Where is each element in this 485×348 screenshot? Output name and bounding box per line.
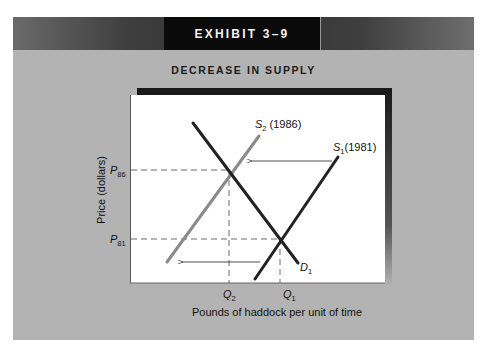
plot-shadow-top [137,88,392,95]
q1-tick-label: Q1 [283,288,296,303]
supply-demand-chart: S2 (1986) S1(1981) D1 P86 P81 Q2 Q1 Poun… [0,0,485,348]
plot-shadow-right [385,88,392,284]
p81-tick-label: P81 [110,233,126,248]
q2-tick-label: Q2 [223,288,236,303]
y-axis-title: Price (dollars) [95,156,107,224]
p86-tick-label: P86 [110,164,126,179]
x-axis-title: Pounds of haddock per unit of time [192,306,362,318]
